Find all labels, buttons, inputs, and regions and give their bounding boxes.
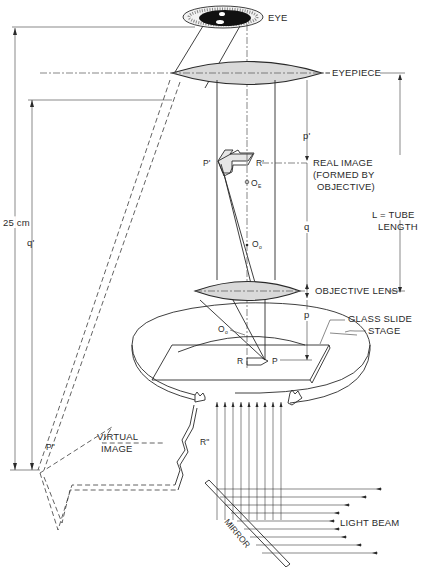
mirror-label: MIRROR (222, 517, 252, 550)
q-label: q (304, 221, 309, 232)
point-oo-label: O (252, 239, 259, 249)
virtual-image-label-line1: VIRTUAL (97, 431, 138, 442)
svg-text:o: o (225, 329, 228, 335)
point-p-double-label: P" (46, 442, 55, 452)
svg-text:E: E (258, 183, 262, 189)
virtual-ray-1 (38, 80, 170, 470)
svg-text:o: o (259, 244, 262, 250)
microscope-diagram: EYE EYEPIECE L = TUBE LENGTH p' ███ 25 c… (0, 0, 424, 567)
light-beam-vertical (216, 402, 283, 520)
glass-slide-label: GLASS SLIDE (348, 313, 412, 324)
virtual-image-outline-bottom (40, 473, 175, 530)
point-r-double-label: R" (200, 437, 209, 447)
point-oo2-label: O (218, 324, 225, 334)
eye-label: EYE (268, 12, 288, 23)
eyepiece-lens (172, 62, 322, 85)
mirror (205, 480, 290, 567)
real-image-label-line3: OBJECTIVE) (317, 181, 375, 192)
eye-icon (183, 6, 263, 28)
virtual-image-label-line2: IMAGE (101, 443, 133, 454)
tube-length-label-line2: LENGTH (378, 221, 418, 232)
eyepiece-label: EYEPIECE (332, 67, 381, 78)
tube-length-label-line1: L = TUBE (372, 209, 415, 220)
ray-object-1 (200, 300, 265, 360)
stage-label: STAGE (368, 325, 401, 336)
virtual-ray-2 (44, 82, 180, 470)
real-image-label-line1: REAL IMAGE (313, 157, 373, 168)
p-label: p (304, 309, 309, 320)
distance-25cm-label: 25 cm (3, 217, 30, 228)
stage (132, 303, 370, 393)
q-prime-label: q' (27, 237, 35, 248)
point-r-label: R (237, 356, 243, 366)
p-prime-label: p' (303, 130, 311, 141)
point-oe-label: O (251, 178, 258, 188)
ray-left-from-eye (175, 26, 203, 72)
objective-lens-label: OBJECTIVE LENS (315, 285, 398, 296)
point-p-prime-label: P' (203, 158, 211, 168)
point-p-label: P (272, 356, 278, 366)
real-image-label-line2: (FORMED BY (313, 169, 375, 180)
light-beam-label: LIGHT BEAM (340, 517, 399, 528)
